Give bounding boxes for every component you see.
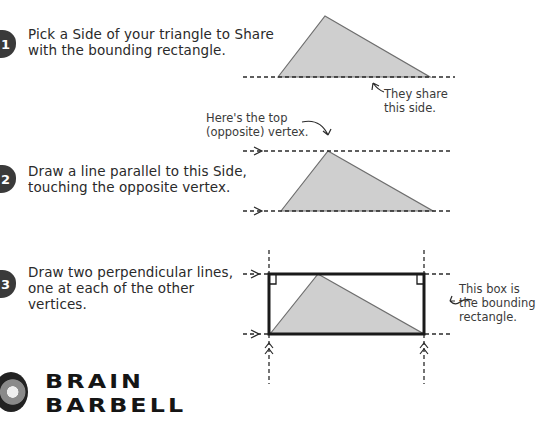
annotation-line: the bounding bbox=[459, 296, 536, 310]
barbell-icon bbox=[0, 372, 28, 412]
arrow-icon bbox=[372, 83, 384, 92]
brand-word-2: BARBELL bbox=[45, 394, 186, 416]
annotation-line: rectangle. bbox=[459, 310, 536, 324]
annotation-shared-side: They share this side. bbox=[384, 87, 448, 115]
triangle-3 bbox=[270, 274, 424, 334]
annotation-line: Here's the top bbox=[206, 111, 309, 125]
annotation-bounding-box: This box is the bounding rectangle. bbox=[459, 282, 536, 324]
brain-barbell-logo: BRAIN BARBELL bbox=[0, 370, 220, 420]
annotation-line: They share bbox=[384, 87, 448, 101]
brand-word-1: BRAIN bbox=[45, 370, 144, 392]
diagram-1-shared-side bbox=[243, 16, 455, 92]
triangle-1 bbox=[278, 16, 430, 77]
annotation-line: (opposite) vertex. bbox=[206, 125, 309, 139]
diagram-3-bounding-rectangle bbox=[243, 250, 472, 384]
annotation-top-vertex: Here's the top (opposite) vertex. bbox=[206, 111, 309, 139]
triangle-2 bbox=[281, 151, 433, 211]
annotation-line: This box is bbox=[459, 282, 536, 296]
annotation-line: this side. bbox=[384, 101, 448, 115]
diagram-canvas bbox=[0, 0, 538, 428]
